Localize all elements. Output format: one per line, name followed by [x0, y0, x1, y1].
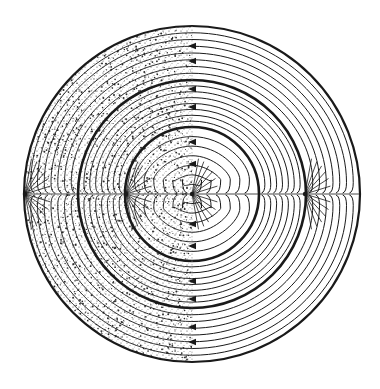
- stipple-dot: [59, 102, 60, 103]
- stipple-dot: [169, 134, 170, 135]
- stipple-dot: [113, 257, 114, 258]
- stipple-dot: [63, 120, 64, 121]
- stipple-dot: [187, 95, 188, 96]
- stipple-dot: [59, 187, 60, 188]
- stipple-dot: [161, 159, 162, 160]
- stipple-dot: [52, 177, 53, 178]
- stipple-dot: [115, 236, 116, 237]
- stipple-dot: [176, 165, 178, 167]
- stipple-dot: [138, 248, 139, 249]
- stipple-dot: [159, 147, 161, 149]
- stipple-dot: [165, 179, 167, 181]
- stipple-dot: [77, 106, 79, 108]
- stipple-dot: [101, 287, 102, 288]
- stipple-dot: [95, 138, 97, 140]
- stipple-dot: [130, 56, 131, 57]
- stipple-dot: [121, 321, 123, 323]
- stipple-dot: [96, 96, 97, 97]
- stipple-dot: [170, 49, 171, 50]
- stipple-dot: [144, 317, 145, 318]
- stipple-dot: [74, 280, 75, 281]
- stipple-dot: [158, 113, 160, 115]
- stipple-dot: [71, 157, 72, 158]
- stipple-dot: [84, 268, 85, 269]
- stipple-dot: [186, 82, 187, 83]
- stipple-dot: [174, 350, 176, 352]
- stipple-dot: [163, 150, 164, 151]
- stipple-dot: [64, 238, 65, 239]
- stipple-dot: [124, 334, 125, 335]
- stipple-dot: [154, 196, 155, 197]
- stipple-dot: [173, 323, 174, 324]
- stipple-dot: [78, 99, 80, 101]
- stipple-dot: [137, 344, 138, 345]
- stipple-dot: [173, 127, 174, 128]
- stipple-dot: [91, 129, 93, 131]
- stipple-dot: [160, 209, 162, 211]
- stipple-dot: [101, 86, 103, 88]
- stipple-dot: [113, 103, 115, 105]
- stipple-dot: [94, 239, 95, 240]
- stipple-dot: [141, 323, 143, 325]
- stipple-dot: [59, 93, 61, 95]
- stipple-dot: [63, 156, 65, 158]
- stipple-dot: [86, 177, 88, 179]
- stipple-dot: [100, 236, 102, 238]
- stipple-dot: [148, 238, 150, 240]
- stipple-dot: [165, 32, 166, 33]
- stipple-dot: [177, 214, 179, 216]
- stipple-dot: [58, 278, 59, 279]
- stipple-dot: [181, 323, 182, 324]
- stipple-dot: [85, 305, 86, 306]
- stipple-dot: [135, 67, 136, 68]
- stipple-dot: [165, 201, 166, 202]
- stipple-dot: [76, 172, 77, 173]
- stipple-dot: [135, 51, 136, 52]
- stipple-dot: [151, 110, 153, 112]
- stipple-dot: [100, 330, 102, 332]
- stipple-dot: [74, 310, 76, 312]
- stipple-dot: [162, 228, 163, 229]
- stipple-dot: [157, 164, 159, 166]
- stipple-dot: [142, 258, 144, 260]
- stipple-dot: [75, 244, 77, 246]
- stipple-dot: [143, 49, 145, 51]
- stipple-dot: [153, 153, 155, 155]
- stipple-dot: [101, 115, 103, 117]
- stipple-dot: [169, 344, 171, 346]
- stipple-dot: [62, 241, 64, 243]
- stipple-dot: [34, 161, 35, 162]
- stipple-dot: [172, 233, 173, 234]
- stipple-dot: [151, 177, 152, 178]
- stipple-dot: [175, 152, 177, 154]
- stipple-dot: [103, 162, 104, 163]
- stipple-dot: [134, 276, 135, 277]
- stipple-dot: [167, 338, 169, 340]
- stipple-dot: [54, 216, 55, 217]
- stipple-dot: [180, 179, 182, 181]
- stipple-dot: [168, 137, 169, 138]
- stipple-dot: [136, 72, 138, 74]
- stipple-dot: [47, 184, 48, 185]
- stipple-dot: [125, 213, 126, 214]
- stipple-dot: [150, 208, 151, 209]
- stipple-dot: [99, 204, 101, 206]
- stipple-dot: [79, 265, 81, 267]
- stipple-dot: [179, 50, 181, 52]
- stipple-dot: [81, 112, 82, 113]
- stipple-dot: [136, 298, 137, 299]
- stipple-dot: [114, 79, 116, 81]
- stipple-dot: [60, 284, 61, 285]
- stipple-dot: [119, 269, 121, 271]
- stipple-dot: [64, 281, 66, 283]
- stipple-dot: [132, 68, 133, 69]
- stipple-dot: [149, 160, 151, 162]
- stipple-dot: [45, 177, 46, 178]
- stipple-dot: [71, 154, 73, 156]
- stipple-dot: [78, 115, 79, 116]
- stipple-dot: [116, 134, 118, 136]
- center-source-point: [190, 192, 194, 196]
- stipple-dot: [68, 91, 70, 93]
- stipple-dot: [49, 169, 50, 170]
- stipple-dot: [187, 315, 188, 316]
